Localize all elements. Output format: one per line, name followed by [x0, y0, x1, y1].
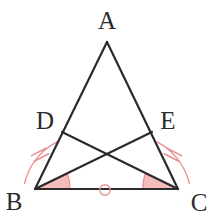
- cevian-CD: [62, 132, 178, 189]
- vertex-label-c: C: [191, 190, 208, 215]
- vertex-label-e: E: [160, 108, 175, 133]
- vertex-label-a: A: [98, 8, 116, 33]
- vertex-label-b: B: [6, 189, 23, 214]
- vertex-label-d: D: [36, 108, 54, 133]
- geometry-figure: A D E B C: [0, 0, 216, 220]
- cevian-BE: [35, 132, 152, 189]
- tick-CE: [164, 148, 181, 161]
